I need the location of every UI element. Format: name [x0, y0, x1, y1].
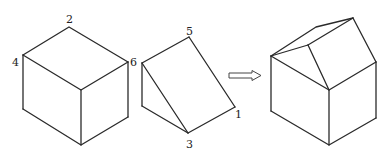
prism-vertex-label-3: 3	[186, 138, 193, 151]
cube-vertex-label-6: 6	[130, 56, 137, 69]
geometry-diagram: 2 4 6 5 1 3	[0, 0, 388, 157]
cube: 2 4 6	[12, 13, 137, 145]
prism-vertex-label-1: 1	[235, 108, 242, 121]
house-composite	[271, 18, 376, 145]
cube-vertex-label-2: 2	[66, 13, 73, 26]
cube-vertex-label-4: 4	[12, 56, 19, 69]
triangular-prism: 5 1 3	[142, 25, 242, 151]
prism-vertex-label-5: 5	[186, 25, 193, 38]
hollow-arrow-icon	[229, 71, 261, 81]
